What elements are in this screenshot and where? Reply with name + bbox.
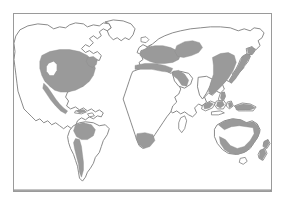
- figure-root: [0, 0, 287, 203]
- world-map: [14, 14, 271, 191]
- map-frame: [13, 13, 272, 192]
- landmass-antarctica: [14, 190, 271, 191]
